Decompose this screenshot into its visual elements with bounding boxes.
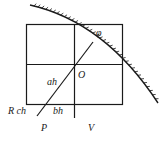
label-v: V bbox=[88, 122, 96, 133]
label-ah: ah bbox=[47, 76, 57, 87]
label-rch: R ch bbox=[7, 105, 26, 116]
label-p: P bbox=[40, 122, 47, 133]
curved-surface bbox=[30, 5, 158, 103]
label-bh: bh bbox=[53, 105, 63, 116]
label-phi: φ bbox=[96, 27, 102, 38]
label-origin: O bbox=[78, 69, 85, 80]
diagram-canvas: φ O ah R ch bh P V bbox=[0, 0, 168, 142]
